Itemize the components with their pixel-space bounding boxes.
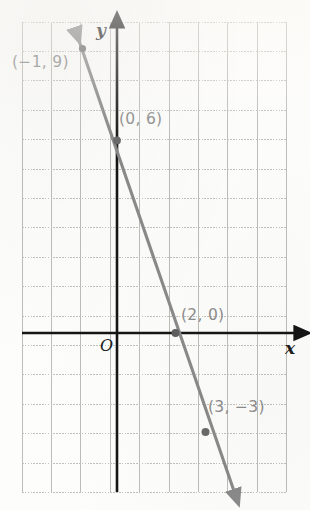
coordinate-plane-svg bbox=[0, 0, 310, 510]
point-marker-0-6 bbox=[113, 137, 121, 145]
origin-label: O bbox=[100, 336, 113, 355]
y-axis-label: y bbox=[96, 20, 106, 40]
plotted-line bbox=[76, 31, 235, 493]
point-label-2-0: (2, 0) bbox=[181, 306, 224, 324]
x-axis-label: x bbox=[285, 338, 295, 358]
point-label-neg1-9: (−1, 9) bbox=[12, 53, 69, 71]
data-point-markers bbox=[79, 45, 210, 436]
point-label-3-neg3: (3, −3) bbox=[208, 398, 265, 416]
point-marker-3-neg3 bbox=[202, 428, 210, 436]
point-marker-neg1-9 bbox=[79, 45, 86, 52]
point-label-0-6: (0, 6) bbox=[119, 110, 162, 128]
graph-figure: (−1, 9) (0, 6) (2, 0) (3, −3) O x y bbox=[0, 0, 310, 510]
point-marker-2-0 bbox=[172, 329, 180, 337]
